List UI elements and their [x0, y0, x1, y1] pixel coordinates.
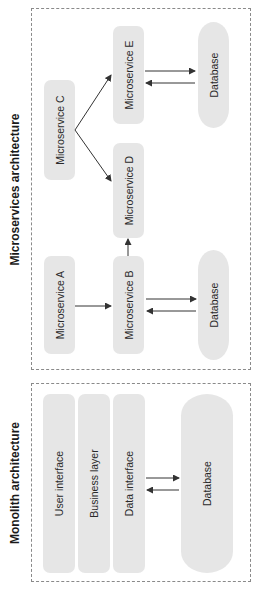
- arrows-layer: [0, 0, 263, 601]
- database-b-label: Database: [208, 283, 220, 328]
- arrow-c-to-e: [75, 75, 111, 130]
- monolith-database-label: Database: [201, 461, 213, 506]
- arrow-c-to-d: [75, 130, 111, 181]
- architecture-diagram: Microservices architecture Microservice …: [0, 0, 263, 601]
- database-e-label: Database: [208, 53, 220, 98]
